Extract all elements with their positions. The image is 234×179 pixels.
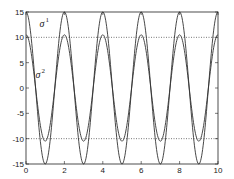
y-tick-label: 15: [15, 8, 24, 17]
series-label-superscript: 1: [45, 16, 49, 24]
y-tick-label: 0: [20, 84, 25, 93]
y-tick-label: -10: [12, 135, 24, 144]
x-tick-label: 8: [177, 166, 182, 175]
x-tick-label: 2: [62, 166, 67, 175]
x-tick-label: 4: [101, 166, 106, 175]
x-tick-label: 6: [139, 166, 144, 175]
series-σ2: [26, 35, 218, 141]
series-label-superscript: 2: [42, 67, 46, 75]
line-chart: 0246810-15-10-5051015σ1σ2: [0, 0, 234, 179]
plot-area: 0246810-15-10-5051015σ1σ2: [12, 8, 223, 175]
y-tick-label: -5: [17, 109, 25, 118]
x-tick-label: 10: [214, 166, 223, 175]
y-tick-label: 5: [20, 59, 25, 68]
x-tick-label: 0: [24, 166, 29, 175]
y-tick-label: -15: [12, 160, 24, 169]
y-tick-label: 10: [15, 33, 24, 42]
